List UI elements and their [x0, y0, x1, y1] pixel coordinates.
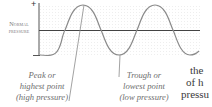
trough-callout-line1: Trough or	[116, 70, 172, 81]
body-text-line2: of h	[186, 76, 203, 88]
normal-pressure-label-line2: pressure	[2, 27, 36, 34]
positive-sign: +	[31, 0, 36, 9]
peak-callout-line2: highest point	[12, 81, 72, 92]
peak-callout-line1: Peak or	[12, 70, 72, 81]
trough-callout: Trough or lowest point (low pressure)	[116, 70, 172, 103]
trough-callout-line3: (low pressure)	[116, 92, 172, 103]
normal-pressure-label: Normal pressure	[2, 20, 36, 34]
sound-wave-diagram: + Normal pressure Peak or highest point …	[0, 0, 212, 107]
peak-callout: Peak or highest point (high pressure)	[12, 70, 72, 103]
peak-callout-line3: (high pressure)	[12, 92, 72, 103]
body-text-line1: the	[190, 64, 203, 76]
normal-pressure-label-line1: Normal	[2, 20, 36, 27]
trough-callout-line2: lowest point	[116, 81, 172, 92]
body-text-line3: pressu	[181, 88, 209, 100]
